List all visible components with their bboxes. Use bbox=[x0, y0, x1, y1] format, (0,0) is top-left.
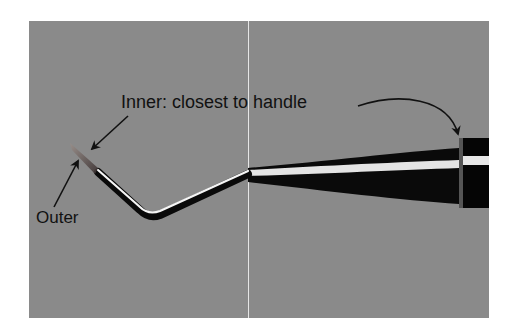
outer-arrow bbox=[54, 161, 78, 207]
instrument-figure: Inner: closest to handle Outer bbox=[0, 0, 513, 331]
instrument-shank bbox=[98, 170, 248, 216]
inner-arrow-handle bbox=[358, 99, 458, 134]
inner-label: Inner: closest to handle bbox=[121, 92, 307, 113]
inner-arrow-tip bbox=[92, 116, 128, 149]
instrument-handle bbox=[248, 138, 489, 208]
outer-label: Outer bbox=[36, 208, 79, 228]
instrument-illustration bbox=[0, 0, 513, 331]
